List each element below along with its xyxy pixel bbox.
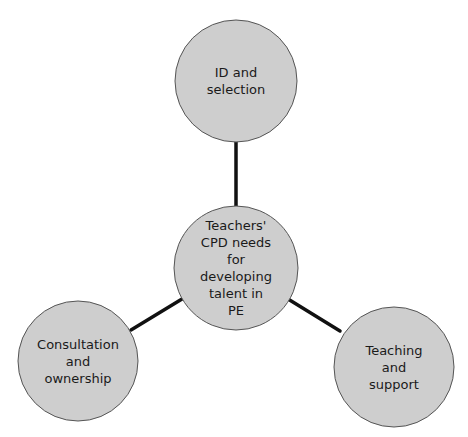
node-left-line-2: and [66, 353, 90, 370]
center-line-1: Teachers' [206, 217, 267, 234]
node-left-line-3: ownership [44, 370, 111, 387]
node-top-line-1: ID and [215, 64, 257, 81]
node-right-line-1: Teaching [365, 342, 422, 359]
node-right-line-3: support [369, 376, 419, 393]
center-line-2: CPD needs [201, 234, 271, 251]
node-right-line-2: and [382, 359, 406, 376]
node-left-line-1: Consultation [37, 336, 119, 353]
node-right-label: Teaching and support [334, 307, 454, 427]
node-top-label: ID and selection [176, 21, 296, 141]
center-line-4: developing [200, 268, 272, 285]
node-left-label: Consultation and ownership [18, 301, 138, 421]
center-line-3: for [227, 251, 245, 268]
center-line-6: PE [228, 302, 244, 319]
node-center-label: Teachers' CPD needs for developing talen… [174, 207, 298, 329]
node-top-line-2: selection [207, 81, 265, 98]
center-line-5: talent in [209, 285, 263, 302]
